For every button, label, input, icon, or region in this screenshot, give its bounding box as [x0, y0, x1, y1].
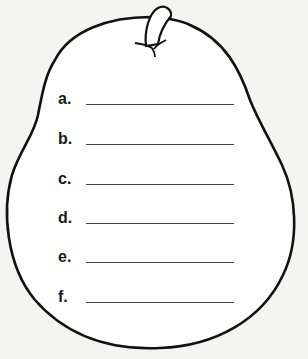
item-label: d. [58, 209, 72, 227]
answer-blank[interactable] [86, 144, 234, 145]
answer-row-c: c. [58, 170, 238, 190]
item-label: a. [58, 90, 71, 108]
answer-row-d: d. [58, 209, 238, 229]
answer-blank[interactable] [86, 223, 234, 224]
item-label: f. [58, 288, 68, 306]
answer-row-e: e. [58, 248, 238, 268]
item-label: e. [58, 248, 71, 266]
answer-blank[interactable] [86, 262, 234, 263]
answer-blank[interactable] [86, 104, 234, 105]
answer-row-b: b. [58, 130, 238, 150]
item-label: c. [58, 170, 71, 188]
item-label: b. [58, 130, 72, 148]
answer-blank[interactable] [86, 302, 234, 303]
answer-blank[interactable] [86, 184, 234, 185]
answer-row-f: f. [58, 288, 238, 308]
answer-row-a: a. [58, 90, 238, 110]
